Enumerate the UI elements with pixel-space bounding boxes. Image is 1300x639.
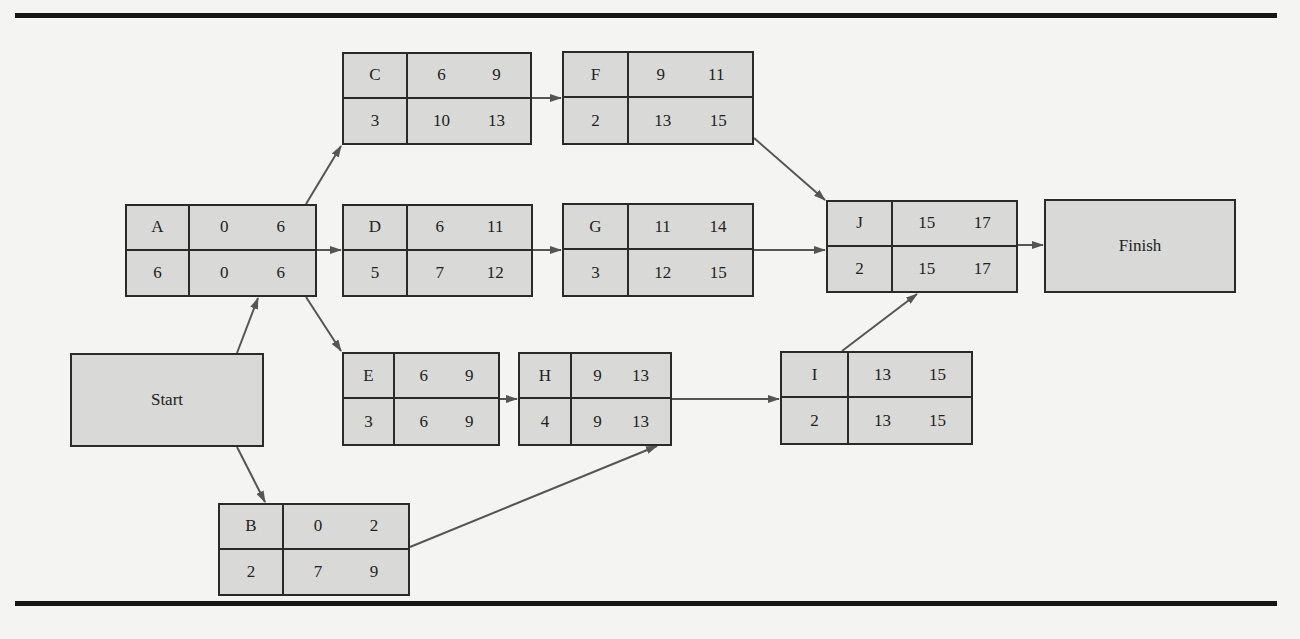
activity-node-e: E 6 9 3 6 9 [342,352,500,446]
edge-i-j [842,294,917,351]
earliest-start: 9 [593,366,602,386]
activity-node-i: I 13 15 2 13 15 [780,351,973,445]
activity-name: D [344,206,408,251]
earliest-finish: 9 [492,65,501,85]
early-times: 6 11 [408,206,531,251]
latest-start: 6 [420,412,429,432]
late-times: 7 12 [408,251,531,296]
early-times: 9 11 [629,53,752,98]
earliest-finish: 2 [370,516,379,536]
activity-name: I [782,353,849,398]
latest-finish: 12 [487,263,504,283]
earliest-finish: 11 [487,217,503,237]
latest-finish: 15 [710,111,727,131]
finish-node: Finish [1044,199,1236,293]
duration: 3 [564,250,629,295]
earliest-finish: 6 [277,217,286,237]
latest-start: 12 [654,263,671,283]
earliest-start: 6 [436,217,445,237]
early-times: 11 14 [629,205,752,250]
latest-start: 13 [874,411,891,431]
duration: 2 [564,98,629,143]
early-times: 9 13 [572,354,670,399]
latest-start: 10 [433,111,450,131]
latest-finish: 13 [488,111,505,131]
earliest-finish: 15 [929,365,946,385]
duration: 2 [220,550,284,595]
duration: 2 [828,247,893,292]
latest-start: 7 [435,263,444,283]
activity-name: H [520,354,572,399]
early-times: 0 6 [190,206,315,251]
activity-node-g: G 11 14 3 12 15 [562,203,754,297]
earliest-start: 0 [314,516,323,536]
latest-finish: 15 [929,411,946,431]
late-times: 13 15 [849,398,971,443]
earliest-finish: 14 [710,217,727,237]
early-times: 6 9 [408,54,530,99]
duration: 4 [520,399,572,444]
finish-label: Finish [1119,236,1162,256]
earliest-start: 9 [657,65,666,85]
late-times: 9 13 [572,399,670,444]
activity-node-f: F 9 11 2 13 15 [562,51,754,145]
late-times: 10 13 [408,99,530,144]
late-times: 13 15 [629,98,752,143]
earliest-finish: 17 [974,213,991,233]
latest-finish: 15 [710,263,727,283]
late-times: 7 9 [284,550,408,595]
activity-node-a: A 0 6 6 0 6 [125,204,317,297]
latest-finish: 17 [974,259,991,279]
latest-finish: 6 [277,263,286,283]
activity-name: A [127,206,190,251]
early-times: 13 15 [849,353,971,398]
edge-f-j [754,138,825,200]
late-times: 6 9 [395,399,498,444]
duration: 5 [344,251,408,296]
activity-node-h: H 9 13 4 9 13 [518,352,672,446]
earliest-start: 15 [918,213,935,233]
duration: 3 [344,399,395,444]
latest-finish: 9 [370,562,379,582]
latest-start: 9 [593,412,602,432]
late-times: 12 15 [629,250,752,295]
earliest-start: 0 [220,217,229,237]
activity-name: C [344,54,408,99]
activity-name: E [344,354,395,399]
duration: 6 [127,251,190,296]
early-times: 15 17 [893,202,1016,247]
activity-node-c: C 6 9 3 10 13 [342,52,532,145]
early-times: 6 9 [395,354,498,399]
activity-node-d: D 6 11 5 7 12 [342,204,533,297]
activity-name: J [828,202,893,247]
edge-a-c [306,146,341,204]
edge-b-h [410,446,657,547]
late-times: 15 17 [893,247,1016,292]
start-node: Start [70,353,264,447]
edge-start-b [237,447,265,502]
edge-start-a [237,298,258,353]
activity-node-b: B 0 2 2 7 9 [218,503,410,596]
activity-name: F [564,53,629,98]
earliest-finish: 9 [465,366,474,386]
latest-finish: 9 [465,412,474,432]
earliest-start: 13 [874,365,891,385]
duration: 2 [782,398,849,443]
latest-finish: 13 [632,412,649,432]
activity-node-j: J 15 17 2 15 17 [826,200,1018,293]
latest-start: 7 [314,562,323,582]
latest-start: 15 [918,259,935,279]
early-times: 0 2 [284,505,408,550]
earliest-finish: 11 [708,65,724,85]
activity-name: G [564,205,629,250]
latest-start: 0 [220,263,229,283]
late-times: 0 6 [190,251,315,296]
start-label: Start [151,390,183,410]
earliest-start: 11 [654,217,670,237]
duration: 3 [344,99,408,144]
earliest-finish: 13 [632,366,649,386]
activity-name: B [220,505,284,550]
earliest-start: 6 [420,366,429,386]
latest-start: 13 [654,111,671,131]
edge-a-e [306,297,341,351]
